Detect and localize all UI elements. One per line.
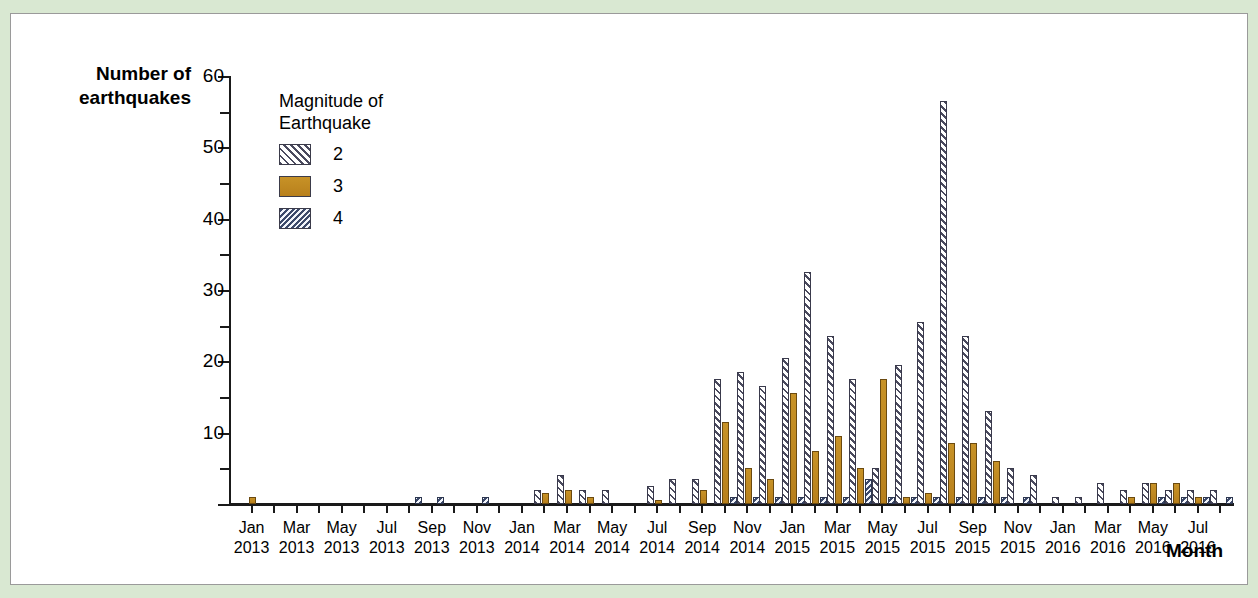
- y-tick-label: 60: [184, 65, 224, 87]
- bar-magnitude-4: [415, 497, 422, 504]
- x-tick: [589, 506, 591, 513]
- bar-magnitude-2: [759, 386, 766, 504]
- bar-magnitude-2: [872, 468, 879, 504]
- bar-magnitude-3: [925, 493, 932, 504]
- bar-magnitude-2: [1142, 483, 1149, 504]
- y-tick-label: 50: [184, 136, 224, 158]
- x-tick: [972, 506, 974, 513]
- bar-magnitude-2: [1120, 490, 1127, 504]
- bar-magnitude-2: [895, 365, 902, 504]
- bar-magnitude-3: [835, 436, 842, 504]
- bar-magnitude-3: [767, 479, 774, 504]
- y-tick-major: [218, 504, 229, 506]
- bar-magnitude-3: [249, 497, 256, 504]
- y-tick-label: 10: [184, 422, 224, 444]
- x-tick: [498, 506, 500, 513]
- x-tick: [1129, 506, 1131, 513]
- bar-magnitude-3: [1173, 483, 1180, 504]
- bar-magnitude-3: [745, 468, 752, 504]
- y-axis-line: [229, 76, 231, 505]
- bar-magnitude-2: [1210, 490, 1217, 504]
- x-tick: [1107, 506, 1109, 513]
- bar-magnitude-2: [917, 322, 924, 504]
- bar-magnitude-2: [849, 379, 856, 504]
- x-tick: [904, 506, 906, 513]
- y-tick-minor: [220, 397, 229, 399]
- x-tick: [476, 506, 478, 513]
- bar-magnitude-3: [857, 468, 864, 504]
- bar-magnitude-2: [534, 490, 541, 504]
- x-tick: [1062, 506, 1064, 513]
- x-tick: [543, 506, 545, 513]
- x-tick: [363, 506, 365, 513]
- x-tick: [1084, 506, 1086, 513]
- x-tick: [679, 506, 681, 513]
- bar-magnitude-2: [1075, 497, 1082, 504]
- bar-magnitude-4: [437, 497, 444, 504]
- bar-magnitude-3: [565, 490, 572, 504]
- bar-magnitude-3: [542, 493, 549, 504]
- x-tick: [318, 506, 320, 513]
- bar-magnitude-2: [1187, 490, 1194, 504]
- bar-magnitude-2: [1052, 497, 1059, 504]
- x-tick: [273, 506, 275, 513]
- bar-magnitude-2: [669, 479, 676, 504]
- x-tick: [1152, 506, 1154, 513]
- y-tick-minor: [220, 183, 229, 185]
- x-tick: [994, 506, 996, 513]
- y-tick-minor: [220, 112, 229, 114]
- bar-magnitude-3: [587, 497, 594, 504]
- bar-magnitude-2: [579, 490, 586, 504]
- y-axis-title: Number of earthquakes: [71, 62, 191, 110]
- bar-magnitude-2: [714, 379, 721, 504]
- bar-magnitude-3: [655, 500, 662, 504]
- plot-area: 102030405060 Jan 2013Mar 2013May 2013Jul…: [229, 76, 1234, 504]
- x-tick: [724, 506, 726, 513]
- chart-panel: Number of earthquakes Month Magnitude of…: [10, 13, 1248, 585]
- bar-magnitude-3: [880, 379, 887, 504]
- x-tick: [431, 506, 433, 513]
- bar-magnitude-3: [1195, 497, 1202, 504]
- x-tick: [408, 506, 410, 513]
- bar-magnitude-2: [1097, 483, 1104, 504]
- x-tick: [296, 506, 298, 513]
- y-tick-label: 30: [184, 279, 224, 301]
- bar-magnitude-3: [790, 393, 797, 504]
- y-tick-label: 20: [184, 350, 224, 372]
- x-tick: [566, 506, 568, 513]
- x-tick: [836, 506, 838, 513]
- x-tick: [814, 506, 816, 513]
- bar-magnitude-2: [962, 336, 969, 504]
- bar-magnitude-2: [692, 479, 699, 504]
- bar-magnitude-2: [940, 101, 947, 504]
- bar-magnitude-3: [948, 443, 955, 504]
- x-tick: [1197, 506, 1199, 513]
- y-tick-minor: [220, 254, 229, 256]
- x-tick: [701, 506, 703, 513]
- x-tick: [769, 506, 771, 513]
- x-tick: [656, 506, 658, 513]
- bar-magnitude-2: [737, 372, 744, 504]
- bar-magnitude-3: [993, 461, 1000, 504]
- bar-magnitude-2: [557, 475, 564, 504]
- x-tick: [859, 506, 861, 513]
- bar-magnitude-2: [1030, 475, 1037, 504]
- x-tick: [1174, 506, 1176, 513]
- bar-magnitude-4: [482, 497, 489, 504]
- bar-magnitude-3: [812, 451, 819, 505]
- bar-magnitude-2: [1165, 490, 1172, 504]
- bar-magnitude-3: [970, 443, 977, 504]
- y-tick-minor: [220, 326, 229, 328]
- bar-magnitude-3: [700, 490, 707, 504]
- bar-magnitude-3: [903, 497, 910, 504]
- bar-magnitude-3: [722, 422, 729, 504]
- y-tick-label: 40: [184, 208, 224, 230]
- y-tick-minor: [220, 468, 229, 470]
- bar-magnitude-2: [647, 486, 654, 504]
- x-tick: [791, 506, 793, 513]
- bar-magnitude-2: [1007, 468, 1014, 504]
- x-tick: [521, 506, 523, 513]
- x-tick: [251, 506, 253, 513]
- x-tick: [386, 506, 388, 513]
- x-tick: [1219, 506, 1221, 513]
